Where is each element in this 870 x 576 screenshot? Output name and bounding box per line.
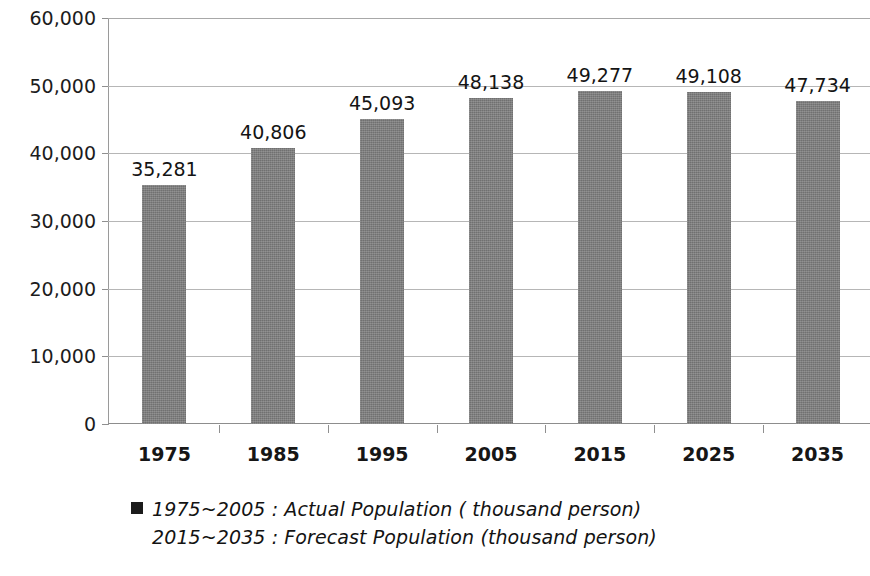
x-axis-tick-mark	[545, 425, 546, 433]
x-axis-tick-label-1995: 1995	[356, 443, 409, 465]
bar-2015	[578, 91, 622, 424]
bar-value-label-2035: 47,734	[784, 74, 850, 96]
x-axis-tick-label-2005: 2005	[465, 443, 518, 465]
bar-value-label-2025: 49,108	[675, 65, 741, 87]
x-axis-tick-mark	[219, 425, 220, 433]
bar-value-label-2015: 49,277	[567, 64, 633, 86]
bar-1985	[251, 148, 295, 424]
y-axis-tick-label: 30,000	[0, 210, 96, 232]
x-axis-tick-label-2035: 2035	[791, 443, 844, 465]
x-axis-tick-label-1985: 1985	[247, 443, 300, 465]
x-axis-tick-mark	[328, 425, 329, 433]
bar-2035	[796, 101, 840, 424]
bar-value-label-2005: 48,138	[458, 71, 524, 93]
bar-value-label-1995: 45,093	[349, 92, 415, 114]
y-axis-tick-label: 60,000	[0, 7, 96, 29]
legend-swatch-icon	[131, 502, 143, 514]
x-axis-tick-label-1975: 1975	[138, 443, 191, 465]
legend-entry-2: 2015~2035 : Forecast Population (thousan…	[131, 526, 851, 554]
bar-2005	[469, 98, 513, 424]
bar-1995	[360, 119, 404, 424]
population-bar-chart: 010,00020,00030,00040,00050,00060,000 35…	[0, 0, 870, 576]
y-axis-tick-label: 40,000	[0, 142, 96, 164]
legend-label: 1975~2005 : Actual Population ( thousand…	[152, 498, 641, 520]
y-axis-tick-label: 10,000	[0, 345, 96, 367]
bar-value-label-1985: 40,806	[240, 121, 306, 143]
legend-label: 2015~2035 : Forecast Population (thousan…	[152, 526, 657, 548]
x-axis-tick-label-2025: 2025	[682, 443, 735, 465]
y-axis-tick-label: 0	[0, 413, 96, 435]
bar-2025	[687, 92, 731, 424]
x-axis-tick-mark	[437, 425, 438, 433]
y-axis-tick-label: 50,000	[0, 75, 96, 97]
x-axis-tick-label-2015: 2015	[573, 443, 626, 465]
x-axis-tick-mark	[763, 425, 764, 433]
chart-legend: 1975~2005 : Actual Population ( thousand…	[131, 498, 851, 554]
bar-value-label-1975: 35,281	[131, 158, 197, 180]
bar-1975	[142, 185, 186, 424]
legend-entry-1: 1975~2005 : Actual Population ( thousand…	[131, 498, 851, 526]
legend-swatch-spacer	[131, 530, 143, 542]
gridline-60000	[108, 18, 870, 19]
y-axis-tick-label: 20,000	[0, 278, 96, 300]
x-axis-tick-mark	[654, 425, 655, 433]
